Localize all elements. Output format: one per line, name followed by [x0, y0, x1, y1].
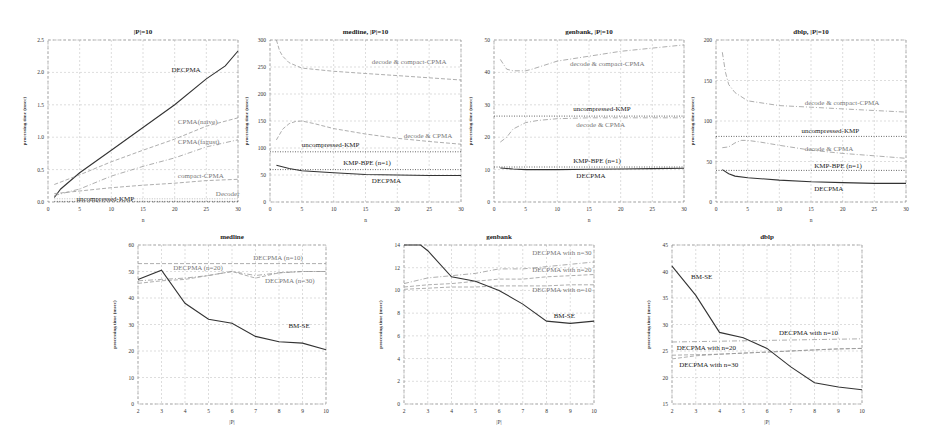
series-line-bm-se: [672, 266, 862, 390]
chart-panel-6: 234567891002468101214genbank|P|processin…: [378, 233, 597, 425]
series-annotation: Decoder: [216, 190, 240, 198]
x-tick-label: 8: [545, 408, 548, 414]
series-annotation: BM-SE: [554, 312, 575, 320]
x-tick-label: 10: [859, 408, 865, 414]
series-line-compact-cpma: [54, 179, 238, 193]
series-annotation: CPMA(fagust): [178, 138, 220, 146]
y-tick-label: 300: [258, 37, 267, 43]
y-tick-label: 0: [131, 401, 134, 407]
x-tick-label: 25: [426, 206, 432, 212]
y-tick-label: 50: [707, 159, 713, 165]
y-tick-label: 60: [129, 242, 135, 248]
series-line-cpma-fagust-: [54, 140, 238, 196]
x-axis-label: |P|: [764, 419, 769, 425]
x-tick-label: 8: [278, 408, 281, 414]
x-tick-label: 30: [235, 206, 241, 212]
chart-panel-2: 051015202530050100150200250300medline, |…: [244, 28, 464, 223]
series-annotation: decode & CPMA: [576, 121, 625, 129]
y-tick-label: 15: [663, 401, 669, 407]
y-tick-label: 30: [663, 322, 669, 328]
chart-panel-3: 05101520253001020304050genbank, |P|=10np…: [468, 28, 687, 223]
series-line-decpma: [722, 170, 906, 184]
y-tick-label: 0: [397, 401, 400, 407]
x-tick-label: 9: [301, 408, 304, 414]
chart-title: medline, |P|=10: [343, 28, 389, 36]
y-tick-label: 200: [704, 37, 713, 43]
series-annotation: DECPMA: [576, 172, 605, 180]
y-tick-label: 40: [129, 295, 135, 301]
y-tick-label: 35: [663, 295, 669, 301]
x-axis-label: n: [142, 217, 145, 223]
x-tick-label: 4: [718, 408, 721, 414]
y-tick-label: 6: [397, 333, 400, 339]
series-annotation: decode & compact-CPMA: [570, 60, 645, 68]
y-tick-label: 1.0: [37, 134, 44, 140]
x-tick-label: 15: [140, 206, 146, 212]
y-tick-label: 0: [487, 199, 490, 205]
series-annotation: CPMA(naive): [178, 118, 218, 126]
series-annotation: KMP-BPE (n=1): [573, 157, 621, 165]
x-tick-label: 10: [323, 408, 329, 414]
x-tick-label: 2: [403, 408, 406, 414]
x-tick-label: 7: [521, 408, 524, 414]
x-axis-label: n: [588, 217, 591, 223]
series-annotation: decode & compact-CPMA: [805, 99, 880, 107]
y-tick-label: 50: [129, 269, 135, 275]
chart-panel-4: 051015202530050100150200dblp, |P|=10npro…: [690, 28, 909, 223]
y-axis-label: processing time (msec): [468, 97, 473, 146]
series-line-decpma: [500, 168, 684, 170]
series-annotation: DECPMA with n=10: [779, 329, 839, 337]
y-tick-label: 30: [129, 322, 135, 328]
x-tick-label: 10: [555, 206, 561, 212]
chart-title: |P|=10: [134, 28, 153, 36]
series-annotation: compact-CPMA: [178, 172, 224, 180]
series-annotation: DECPMA with n=20: [532, 266, 592, 274]
series-annotation: decode & CPMA: [805, 145, 854, 153]
x-tick-label: 20: [395, 206, 401, 212]
x-tick-label: 10: [109, 206, 115, 212]
x-tick-label: 2: [137, 408, 140, 414]
series-annotation: decode & CPMA: [404, 132, 453, 140]
y-tick-label: 20: [485, 134, 491, 140]
x-tick-label: 3: [426, 408, 429, 414]
x-tick-label: 7: [254, 408, 257, 414]
x-tick-label: 5: [474, 408, 477, 414]
y-axis-label: processing time (msec): [690, 97, 695, 146]
y-tick-label: 2.5: [37, 37, 44, 43]
series-annotation: uncompressed-KMP: [77, 195, 135, 203]
y-tick-label: 4: [397, 356, 400, 362]
series-annotation: uncompressed-KMP: [302, 141, 360, 149]
x-tick-label: 6: [498, 408, 501, 414]
chart-title: genbank: [486, 233, 512, 241]
x-tick-label: 0: [47, 206, 50, 212]
x-tick-label: 8: [813, 408, 816, 414]
y-tick-label: 8: [397, 310, 400, 316]
y-tick-label: 200: [258, 91, 267, 97]
x-tick-label: 30: [903, 206, 909, 212]
x-tick-label: 2: [671, 408, 674, 414]
x-tick-label: 0: [493, 206, 496, 212]
y-axis-label: processing time (msec): [22, 97, 27, 146]
x-tick-label: 20: [618, 206, 624, 212]
y-axis-label: processing time (msec): [244, 97, 249, 146]
x-axis-label: |P|: [229, 419, 234, 425]
y-tick-label: 50: [485, 37, 491, 43]
x-tick-label: 5: [207, 408, 210, 414]
x-tick-label: 0: [269, 206, 272, 212]
x-tick-label: 9: [569, 408, 572, 414]
series-annotation: decode & compact-CPMA: [372, 58, 447, 66]
x-tick-label: 25: [650, 206, 656, 212]
y-tick-label: 0.5: [37, 167, 44, 173]
x-tick-label: 25: [872, 206, 878, 212]
series-annotation: DECPMA with n=30: [679, 361, 739, 369]
chart-panel-5: 23456789100102030405060medline|P|process…: [112, 233, 329, 425]
chart-panel-1: 0510152025300.00.51.01.52.02.5|P|=10npro…: [22, 28, 241, 223]
series-annotation: BM-SE: [288, 322, 309, 330]
series-annotation: DECPMA: [814, 185, 843, 193]
y-tick-label: 250: [258, 64, 267, 70]
x-tick-label: 5: [300, 206, 303, 212]
y-tick-label: 150: [704, 78, 713, 84]
x-tick-label: 9: [837, 408, 840, 414]
y-axis-label: processing time (msec): [112, 300, 117, 349]
x-axis-label: n: [364, 217, 367, 223]
